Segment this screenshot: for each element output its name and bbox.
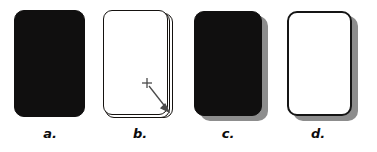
figure-card-variants: a. b. c. d.: [0, 0, 377, 152]
panel-label-b: b.: [120, 126, 160, 141]
panel-label-c: c.: [208, 126, 248, 141]
panel-label-d: d.: [298, 126, 338, 141]
card-white-raised: [287, 11, 352, 116]
card-stack-front: [103, 10, 168, 115]
panel-label-a: a.: [30, 126, 70, 141]
card-black-flat: [14, 10, 85, 117]
card-black-raised: [194, 11, 262, 116]
